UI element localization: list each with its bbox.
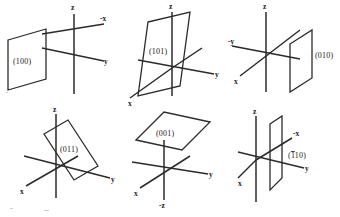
axis-label-x: x (134, 189, 138, 198)
axis-line-negx (256, 138, 292, 160)
axis-label-negx: -x (293, 129, 299, 138)
diagram-100: z -x y (100) (0, 0, 115, 108)
plane-label-100: (100) (13, 57, 31, 66)
axis-label-y: y (215, 70, 219, 79)
scan-speck (10, 208, 13, 209)
axis-line-negx (42, 24, 104, 34)
diagram-011: z x y (011) (12, 108, 132, 217)
plane-label-101: (101) (149, 47, 167, 56)
axis-label-z: z (71, 3, 75, 12)
plane-polygon-1bar10 (270, 116, 282, 190)
crystal-plane-figure: z -x y (100) z x y (101) (0, 0, 340, 217)
axis-label-z: z (253, 107, 257, 116)
plane-label-1bar10: (110) (288, 151, 306, 160)
diagram-1bar10: z -x x y (110) (238, 108, 340, 217)
plane-polygon-010 (290, 30, 312, 92)
plane-label-001: (001) (156, 129, 174, 138)
axis-label-negz: -z (159, 201, 165, 210)
axis-label-y: y (209, 170, 213, 179)
axis-label-x: x (238, 179, 242, 188)
axis-line-x (238, 160, 256, 178)
plane-label-010: (010) (315, 51, 333, 60)
scan-speck (6, 92, 8, 93)
axis-label-x: x (20, 187, 24, 196)
diagram-010: z -y x (010) (228, 0, 340, 108)
axis-line-negx-stub (172, 48, 202, 68)
axis-line-y (138, 60, 214, 74)
diagram-001: x y -z (001) (132, 108, 248, 217)
axis-label-z: z (169, 2, 173, 11)
axis-label-z: z (263, 2, 267, 11)
axis-line-x (26, 156, 78, 186)
plane-label-011: (011) (60, 145, 78, 154)
axis-line-x (240, 30, 300, 76)
axis-line-y (42, 48, 104, 61)
axis-label-x: x (234, 77, 238, 86)
axis-label-negx: -x (100, 14, 106, 23)
axis-label-y: y (305, 164, 309, 173)
scan-speck (44, 210, 49, 211)
axis-label-negy: -y (228, 37, 234, 46)
plane-label-remainder: 10) (295, 151, 306, 160)
axis-line-x (140, 156, 190, 188)
axis-line-y (132, 162, 208, 174)
diagram-101: z x y (101) (108, 0, 226, 112)
axis-label-x: x (128, 99, 132, 108)
axis-label-y: y (111, 175, 115, 184)
